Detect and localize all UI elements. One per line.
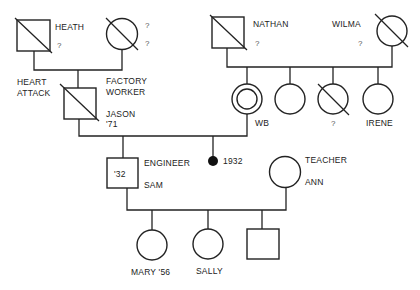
jason-cause-line2: ATTACK: [17, 88, 51, 98]
wb-circle-inner: [237, 89, 257, 109]
sam-ann-marriage-line: [127, 188, 286, 210]
ann-name: ANN: [305, 177, 324, 187]
sister3-label: ?: [331, 119, 336, 128]
jason-occupation-line2: WORKER: [106, 87, 145, 97]
sam-year: '32: [114, 169, 126, 179]
jason-wb-marriage-line: [79, 114, 247, 136]
miscarriage-dot: [208, 156, 218, 166]
irene-label: IRENE: [366, 118, 393, 128]
mary-circle: [137, 230, 167, 260]
sam-name: SAM: [144, 180, 163, 190]
heath-note: ?: [57, 41, 62, 50]
ann-occupation: TEACHER: [305, 155, 347, 165]
jason-name: JASON: [106, 109, 135, 119]
heath-label: HEATH: [55, 22, 84, 32]
jason-year: '71: [106, 119, 118, 129]
son-square: [247, 229, 279, 259]
jason-cause-line1: HEART: [17, 77, 47, 87]
nathan-note: ?: [255, 39, 260, 48]
jason-occupation-line1: FACTORY: [106, 76, 147, 86]
genogram-diagram: HEATH ? ? ? NATHAN ? WILMA ? WB ? IRENE …: [0, 0, 420, 290]
heath-wife-note2: ?: [145, 39, 150, 48]
sally-circle: [193, 229, 223, 259]
irene-circle: [363, 84, 393, 114]
nathan-label: NATHAN: [253, 19, 289, 29]
sally-label: SALLY: [196, 266, 223, 276]
wilma-label: WILMA: [332, 19, 361, 29]
right-marriage-line: [227, 46, 392, 67]
left-marriage-line: [34, 50, 122, 70]
heath-wife-note1: ?: [145, 21, 150, 30]
sister2-circle: [275, 84, 305, 114]
wilma-note: ?: [358, 39, 363, 48]
mary-label: MARY '56: [131, 267, 170, 277]
ann-circle: [270, 157, 301, 188]
wb-label: WB: [255, 118, 269, 128]
sam-occupation: ENGINEER: [144, 158, 190, 168]
miscarriage-year: 1932: [223, 156, 243, 166]
